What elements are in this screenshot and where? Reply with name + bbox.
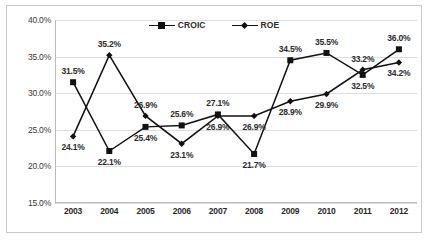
data-label-croic: 34.5% (279, 44, 302, 54)
y-tick-label: 35.0% (28, 52, 51, 62)
data-label-croic: 32.5% (351, 81, 374, 91)
x-tick-label: 2012 (390, 206, 408, 216)
data-label-roe: 23.1% (170, 150, 193, 160)
x-tick-label: 2004 (100, 206, 118, 216)
data-label-roe: 26.9% (243, 122, 266, 132)
x-tick-label: 2008 (245, 206, 263, 216)
x-tick-label: 2009 (281, 206, 299, 216)
data-label-croic: 22.1% (98, 157, 121, 167)
y-tick-label: 40.0% (28, 15, 51, 25)
gridline (55, 203, 417, 204)
data-label-croic: 25.4% (134, 133, 157, 143)
data-label-roe: 35.2% (98, 39, 121, 49)
data-label-roe: 26.9% (206, 122, 229, 132)
y-tick-label: 15.0% (28, 198, 51, 208)
x-tick-label: 2011 (354, 206, 372, 216)
data-label-croic: 27.1% (206, 98, 229, 108)
data-label-roe: 29.9% (315, 100, 338, 110)
x-tick-label: 2007 (209, 206, 227, 216)
y-tick-label: 30.0% (28, 88, 51, 98)
x-tick-label: 2006 (173, 206, 191, 216)
data-label-croic: 35.5% (315, 37, 338, 47)
data-label-croic: 21.7% (243, 160, 266, 170)
x-tick-label: 2005 (136, 206, 154, 216)
data-label-roe: 33.2% (351, 54, 374, 64)
data-label-croic: 25.6% (170, 109, 193, 119)
data-label-roe: 34.2% (387, 68, 410, 78)
data-label-croic: 36.0% (387, 33, 410, 43)
x-tick-label: 2003 (64, 206, 82, 216)
x-tick-label: 2010 (317, 206, 335, 216)
data-label-croic: 31.5% (62, 66, 85, 76)
data-label-roe: 28.9% (279, 107, 302, 117)
y-tick-label: 25.0% (28, 125, 51, 135)
chart-screenshot: 15.0%20.0%25.0%30.0%35.0%40.0% 31.5%22.1… (0, 0, 431, 245)
data-label-roe: 26.9% (134, 100, 157, 110)
data-labels: 31.5%22.1%25.4%25.6%27.1%21.7%34.5%35.5%… (55, 20, 417, 203)
y-tick-label: 20.0% (28, 161, 51, 171)
plot-area: 31.5%22.1%25.4%25.6%27.1%21.7%34.5%35.5%… (55, 20, 417, 203)
data-label-roe: 24.1% (62, 142, 85, 152)
x-axis: 2003200420052006200720082009201020112012 (55, 206, 417, 224)
y-axis: 15.0%20.0%25.0%30.0%35.0%40.0% (13, 20, 51, 203)
chart-frame: 15.0%20.0%25.0%30.0%35.0%40.0% 31.5%22.1… (6, 5, 422, 233)
